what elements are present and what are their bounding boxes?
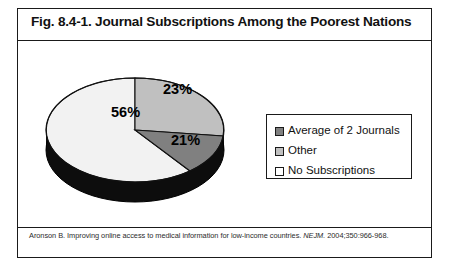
pie-top-face xyxy=(46,78,224,182)
citation-journal: NEJM. xyxy=(303,231,325,240)
citation-suffix: 2004;350:966-968. xyxy=(325,231,388,240)
pie-chart-svg xyxy=(40,44,240,222)
figure-frame: Fig. 8.4-1. Journal Subscriptions Among … xyxy=(17,8,432,258)
pie-chart: 56% 23% 21% xyxy=(40,44,240,222)
legend-label: Average of 2 Journals xyxy=(288,125,400,137)
chart-legend: Average of 2 Journals Other No Subscript… xyxy=(266,114,412,179)
pie-label-average-2-journals: 21% xyxy=(171,132,200,148)
citation-divider xyxy=(18,227,431,228)
figure-title-bar: Fig. 8.4-1. Journal Subscriptions Among … xyxy=(18,9,431,39)
legend-swatch-icon xyxy=(275,147,284,156)
citation-prefix: Aronson B. Improving online access to me… xyxy=(29,231,303,240)
pie-label-no-subscriptions: 56% xyxy=(111,104,140,120)
legend-swatch-icon xyxy=(275,167,284,176)
legend-item-average-2-journals: Average of 2 Journals xyxy=(275,122,411,140)
legend-swatch-icon xyxy=(275,127,284,136)
pie-label-other: 23% xyxy=(163,81,192,97)
page-title: Fig. 8.4-1. Journal Subscriptions Among … xyxy=(31,14,411,29)
legend-label: No Subscriptions xyxy=(288,165,375,177)
legend-label: Other xyxy=(288,145,317,157)
legend-item-no-subscriptions: No Subscriptions xyxy=(275,162,411,180)
chart-plot-area: 56% 23% 21% Average of 2 Journals Other … xyxy=(18,41,431,226)
legend-item-other: Other xyxy=(275,142,411,160)
figure-citation: Aronson B. Improving online access to me… xyxy=(29,231,424,240)
